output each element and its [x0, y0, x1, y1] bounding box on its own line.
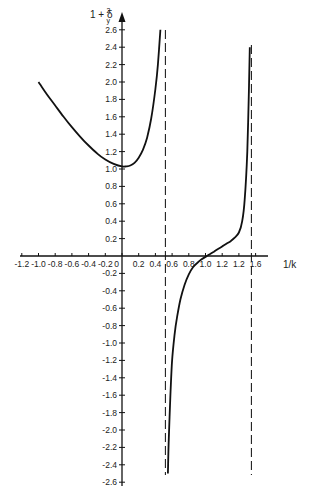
x-tick-label: -1.2 [14, 259, 29, 269]
y-tick-label: -1.8 [102, 408, 117, 418]
x-tick-label: -0.6 [65, 259, 80, 269]
x-tick-label: -0.4 [81, 259, 96, 269]
y-tick-label: -2.6 [102, 477, 117, 487]
y-tick-label: 0.2 [105, 234, 117, 244]
y-tick-label: 2.4 [105, 42, 117, 52]
x-tick-label: 0.4 [149, 259, 161, 269]
y-axis-title-sub: y [106, 17, 110, 25]
y-tick-label: -1.0 [102, 338, 117, 348]
y-tick-label: -1.6 [102, 390, 117, 400]
asymptote-lines [165, 30, 251, 475]
x-tick-label: -0.8 [48, 259, 63, 269]
y-tick-label: 1.8 [105, 94, 117, 104]
y-tick-label: 1.6 [105, 112, 117, 122]
y-tick-label: 0.6 [105, 199, 117, 209]
y-tick-label: -2.2 [102, 442, 117, 452]
curve-branch-left [39, 30, 161, 167]
x-axis-title: 1/k [283, 259, 297, 270]
y-tick-label: 1.2 [105, 147, 117, 157]
y-tick-label: -2.4 [102, 460, 117, 470]
y-tick-label: 1.4 [105, 129, 117, 139]
y-tick-label: -1.4 [102, 373, 117, 383]
x-tick-label: 1.2 [216, 259, 228, 269]
x-tick-label: 1.6 [250, 259, 262, 269]
y-tick-label: -0.8 [102, 321, 117, 331]
x-tick-label: 1.2 [233, 259, 245, 269]
y-tick-label: -2.0 [102, 425, 117, 435]
y-tick-label: -1.2 [102, 355, 117, 365]
x-tick-label: -1.0 [31, 259, 46, 269]
y-tick-label: 2.0 [105, 77, 117, 87]
x-tick-label: 0.2 [133, 259, 145, 269]
y-tick-label: 0.8 [105, 181, 117, 191]
y-axis-title-sup: 2 [107, 7, 111, 14]
y-tick-label: -0.2 [102, 268, 117, 278]
y-tick-label: -0.6 [102, 303, 117, 313]
y-tick-label: 2.6 [105, 25, 117, 35]
x-tick-label: 0.6 [166, 259, 178, 269]
y-tick-label: -0.4 [102, 286, 117, 296]
y-tick-label: 2.2 [105, 60, 117, 70]
y-axis-title: 1 + δ2y [90, 7, 113, 25]
y-tick-label: 1.0 [105, 164, 117, 174]
curves [39, 30, 250, 474]
y-tick-label: 0.4 [105, 216, 117, 226]
axes [20, 12, 268, 486]
y-axis-arrow-icon [119, 12, 126, 22]
chart-canvas: -1.2-1.0-0.8-0.6-0.4-0.200.20.40.60.81.0… [0, 0, 313, 499]
